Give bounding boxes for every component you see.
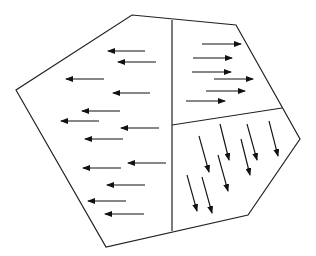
arrow-down-right-icon — [202, 177, 212, 213]
arrow-down-right-icon — [241, 139, 250, 175]
bottom-right-region — [187, 121, 278, 213]
region-dividers — [172, 20, 282, 231]
arrow-down-right-icon — [247, 124, 257, 160]
diagram-canvas — [0, 0, 316, 256]
arrow-down-right-icon — [199, 136, 209, 172]
arrow-down-right-icon — [269, 121, 278, 156]
outer-polygon-outline — [16, 15, 300, 247]
arrow-groups — [61, 44, 278, 214]
arrow-down-right-icon — [187, 175, 197, 211]
left-region — [61, 51, 166, 214]
arrow-down-right-icon — [218, 155, 228, 191]
regions-arrow-diagram — [0, 0, 316, 256]
horizontal-divider — [172, 108, 282, 125]
top-right-region — [186, 44, 253, 101]
arrow-down-right-icon — [220, 124, 229, 160]
